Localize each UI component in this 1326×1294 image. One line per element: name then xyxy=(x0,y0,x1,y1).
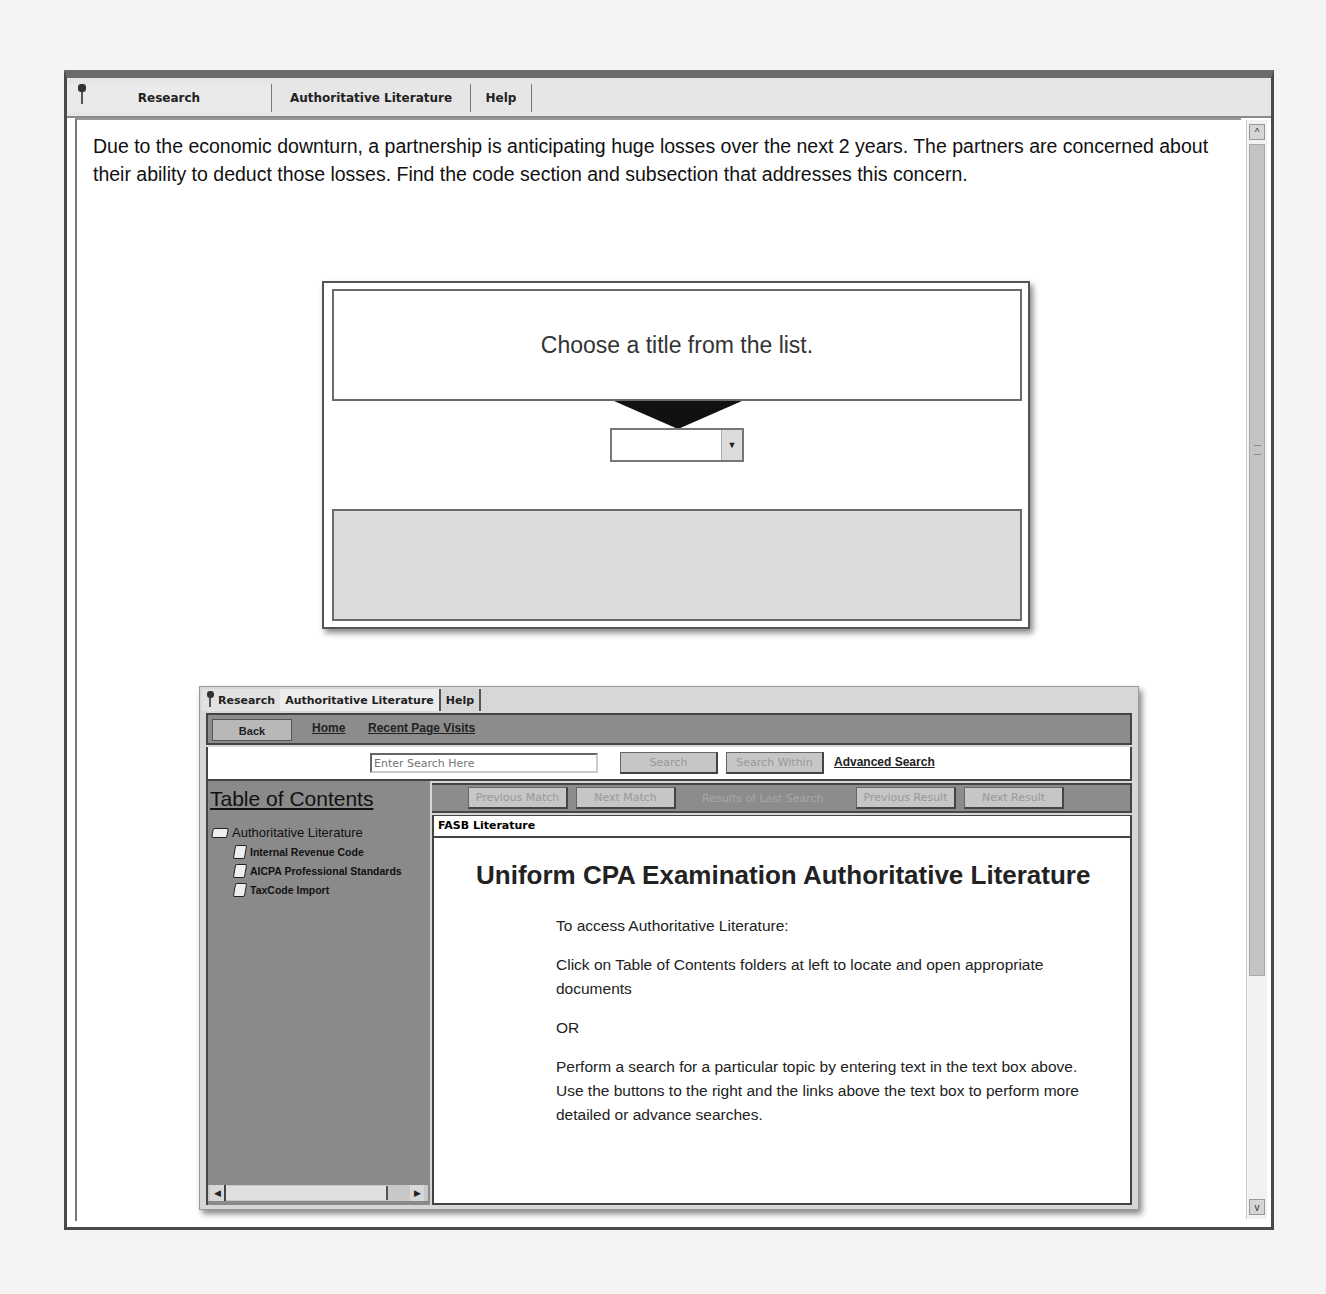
document-section-title: FASB Literature xyxy=(434,816,1130,838)
lit-nav-bar: Back Home Recent Page Visits xyxy=(206,713,1132,745)
recent-page-visits-link[interactable]: Recent Page Visits xyxy=(368,721,475,735)
tab-authoritative-literature[interactable]: Authoritative Literature xyxy=(272,84,471,112)
scroll-left-icon[interactable]: ◀ xyxy=(210,1185,226,1201)
toc-root-label: Authoritative Literature xyxy=(232,825,363,840)
vertical-scrollbar[interactable]: ^ v xyxy=(1246,120,1267,1219)
tab-help-label: Help xyxy=(486,91,517,105)
lit-tab-authoritative-literature[interactable]: Authoritative Literature xyxy=(280,689,441,711)
chevron-down-icon[interactable]: ▼ xyxy=(721,430,742,460)
search-button[interactable]: Search xyxy=(620,752,718,774)
folder-icon xyxy=(233,883,247,897)
folder-icon xyxy=(233,845,247,859)
scrollbar-thumb[interactable] xyxy=(1249,144,1265,976)
previous-match-button[interactable]: Previous Match xyxy=(468,787,568,809)
pin-icon xyxy=(205,691,215,709)
toc-child-label: TaxCode Import xyxy=(250,884,329,896)
toc-title: Table of Contents xyxy=(210,787,373,811)
next-match-button[interactable]: Next Match xyxy=(576,787,676,809)
tab-help[interactable]: Help xyxy=(471,84,532,112)
tab-research-label: Research xyxy=(138,91,200,105)
document-body: To access Authoritative Literature: Clic… xyxy=(556,914,1096,1142)
toc-item-authoritative-literature[interactable]: Authoritative Literature xyxy=(212,823,402,842)
tab-authoritative-literature-label: Authoritative Literature xyxy=(290,91,452,105)
search-within-button[interactable]: Search Within xyxy=(726,752,824,774)
toc-tree: Authoritative Literature Internal Revenu… xyxy=(212,823,402,899)
scroll-right-icon[interactable]: ▶ xyxy=(410,1185,424,1201)
results-of-last-search-label: Results of Last Search xyxy=(702,792,824,805)
folder-icon xyxy=(233,864,247,878)
search-row: Search Search Within Advanced Search xyxy=(206,747,1132,781)
advanced-search-link[interactable]: Advanced Search xyxy=(834,755,935,769)
next-result-button[interactable]: Next Result xyxy=(964,787,1064,809)
match-toolbar: Previous Match Next Match Results of Las… xyxy=(432,783,1132,813)
toc-item-aicpa-professional-standards[interactable]: AICPA Professional Standards xyxy=(212,861,402,880)
previous-result-button[interactable]: Previous Result xyxy=(856,787,956,809)
doc-paragraph: OR xyxy=(556,1016,1096,1040)
document-panel: FASB Literature Uniform CPA Examination … xyxy=(432,815,1132,1205)
chooser-prompt-box: Choose a title from the list. xyxy=(332,289,1022,401)
scroll-up-icon[interactable]: ^ xyxy=(1249,124,1265,140)
answer-chooser: Choose a title from the list. ▼ xyxy=(322,281,1030,629)
question-text: Due to the economic downturn, a partners… xyxy=(93,132,1243,188)
lit-tab-research[interactable]: Research xyxy=(202,689,280,711)
chooser-prompt: Choose a title from the list. xyxy=(541,332,813,359)
home-link[interactable]: Home xyxy=(312,721,345,735)
grip-icon xyxy=(1254,445,1261,455)
lit-tab-research-label: Research xyxy=(218,694,275,707)
document-heading: Uniform CPA Examination Authoritative Li… xyxy=(476,860,1090,891)
toc-horizontal-scrollbar[interactable]: ◀ ▶ xyxy=(208,1185,428,1201)
lit-tab-help-label: Help xyxy=(446,694,474,707)
toc-item-internal-revenue-code[interactable]: Internal Revenue Code xyxy=(212,842,402,861)
folder-open-icon xyxy=(211,828,229,838)
main-tab-bar: Research Authoritative Literature Help xyxy=(67,78,1271,118)
scrollbar-thumb[interactable] xyxy=(226,1186,388,1200)
down-arrow-icon xyxy=(614,401,742,429)
lit-tab-help[interactable]: Help xyxy=(441,689,481,711)
literature-tab-bar: Research Authoritative Literature Help xyxy=(202,689,481,711)
doc-paragraph: Click on Table of Contents folders at le… xyxy=(556,953,1096,1001)
tab-research[interactable]: Research xyxy=(67,84,272,112)
toc-child-label: AICPA Professional Standards xyxy=(250,865,402,877)
lit-tab-authlit-label: Authoritative Literature xyxy=(285,694,434,707)
table-of-contents-panel: Table of Contents Authoritative Literatu… xyxy=(206,781,430,1205)
answer-box[interactable] xyxy=(332,509,1022,621)
pin-icon xyxy=(77,84,87,106)
toc-child-label: Internal Revenue Code xyxy=(250,846,364,858)
search-input[interactable] xyxy=(370,753,598,773)
doc-paragraph: Perform a search for a particular topic … xyxy=(556,1055,1096,1127)
authoritative-literature-screenshot: Research Authoritative Literature Help B… xyxy=(199,686,1139,1210)
title-select[interactable]: ▼ xyxy=(610,428,744,462)
back-button[interactable]: Back xyxy=(212,719,292,741)
scroll-down-icon[interactable]: v xyxy=(1249,1199,1265,1215)
doc-paragraph: To access Authoritative Literature: xyxy=(556,914,1096,938)
toc-item-taxcode-import[interactable]: TaxCode Import xyxy=(212,880,402,899)
